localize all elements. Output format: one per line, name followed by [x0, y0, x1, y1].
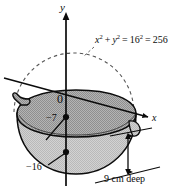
equation-plus: + — [105, 34, 111, 45]
water-level-label: −7 — [46, 113, 57, 123]
equation-y-exponent: 2 — [117, 33, 120, 40]
y-axis-label: y — [60, 2, 65, 13]
equation-equals-2: = — [145, 34, 151, 45]
equation-equals-1: = — [122, 34, 128, 45]
equation-radius: 16 — [130, 34, 140, 45]
y-axis-arrowhead — [63, 12, 70, 20]
bowl-bottom-label: −16 — [26, 162, 42, 172]
circle-equation-label: x2 + y2 = 162 = 256 — [95, 35, 168, 45]
equation-radius-exponent: 2 — [140, 33, 143, 40]
bowl-left-spout — [13, 93, 30, 105]
x-axis-label: x — [152, 113, 156, 123]
bowl-diagram-figure: y x 0 −7 −16 9 cm deep x2 + y2 = 162 = 2… — [0, 0, 188, 190]
depth-label: 9 cm deep — [104, 174, 145, 184]
equation-result: 256 — [153, 34, 168, 45]
equation-x-exponent: 2 — [99, 33, 102, 40]
origin-label: 0 — [57, 93, 63, 105]
